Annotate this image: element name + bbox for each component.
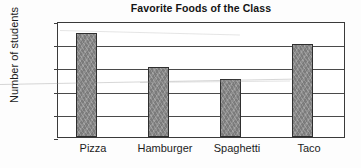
chart-title: Favorite Foods of the Class [57,2,345,14]
bar-spaghetti [220,79,241,137]
plot-area [57,22,345,138]
bar-hamburger [148,67,169,137]
bar-chart-figure: Favorite Foods of the Class Number of st… [0,0,361,168]
y-tick-mark-8 [54,46,58,47]
bar-pizza [76,33,97,137]
y-tick-mark-0 [54,139,58,140]
y-tick-mark-6 [54,69,58,70]
y-axis-title: Number of students [8,0,20,115]
y-tick-mark-4 [54,93,58,94]
y-tick-mark-10 [54,23,58,24]
category-label-taco: Taco [264,142,354,154]
y-tick-mark-2 [54,116,58,117]
bar-taco [292,44,313,137]
